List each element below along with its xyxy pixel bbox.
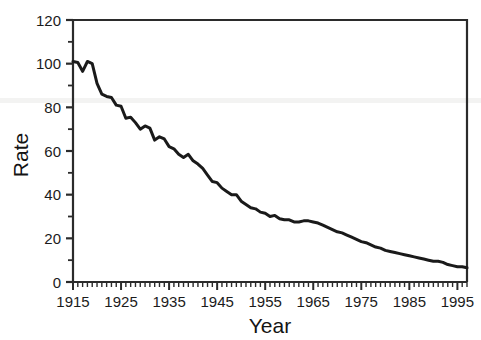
x-tick-label: 1945 bbox=[200, 293, 233, 310]
y-tick-label: 120 bbox=[36, 12, 61, 29]
y-tick-label: 80 bbox=[44, 99, 61, 116]
x-tick-label: 1935 bbox=[152, 293, 185, 310]
y-tick-label: 20 bbox=[44, 230, 61, 247]
x-tick-label: 1955 bbox=[249, 293, 282, 310]
x-axis-title: Year bbox=[249, 314, 291, 337]
chart-page: 020406080100120 191519251935194519551965… bbox=[0, 0, 481, 340]
y-tick-label: 100 bbox=[36, 55, 61, 72]
x-tick-label: 1925 bbox=[104, 293, 137, 310]
y-axis-title: Rate bbox=[9, 133, 32, 177]
y-axis-tick-labels: 020406080100120 bbox=[36, 12, 61, 291]
x-tick-label: 1985 bbox=[393, 293, 426, 310]
y-tick-label: 40 bbox=[44, 186, 61, 203]
y-tick-label: 0 bbox=[53, 274, 61, 291]
x-tick-label: 1915 bbox=[56, 293, 89, 310]
x-tick-label: 1975 bbox=[345, 293, 378, 310]
x-tick-label: 1995 bbox=[441, 293, 474, 310]
x-axis-tick-labels: 191519251935194519551965197519851995 bbox=[56, 293, 474, 310]
line-chart: 020406080100120 191519251935194519551965… bbox=[0, 0, 481, 340]
data-series-line bbox=[73, 61, 467, 267]
x-axis-ticks bbox=[73, 282, 467, 290]
plot-frame bbox=[73, 20, 467, 282]
y-tick-label: 60 bbox=[44, 143, 61, 160]
x-tick-label: 1965 bbox=[297, 293, 330, 310]
